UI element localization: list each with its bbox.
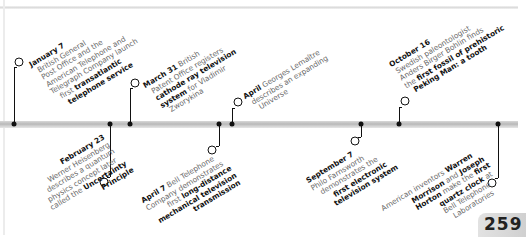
circle-marker-oct16 <box>401 97 410 106</box>
connector-april <box>232 108 233 124</box>
circle-marker-april <box>234 98 243 107</box>
connector-mar31 <box>130 88 131 124</box>
top-rule <box>0 6 518 9</box>
connector-sep7 <box>361 124 362 137</box>
left-margin-rule <box>3 0 5 235</box>
connector-oct16 <box>399 107 400 124</box>
circle-marker-sep7 <box>351 137 360 146</box>
connector-oct16-h <box>399 107 402 108</box>
circle-marker-mar31 <box>131 79 140 88</box>
connector-apr7-h <box>216 146 219 147</box>
page-number: 259 <box>484 214 523 234</box>
event-april: April Georges Lemaître describes an expa… <box>242 47 334 117</box>
timeline-axis <box>0 121 518 128</box>
connector-jan7 <box>14 67 15 124</box>
event-april-7: April 7 Bell Telephone Company demonstra… <box>140 149 243 234</box>
event-february-23: February 23 Werner Heisenberg describes … <box>28 129 136 222</box>
connector-jan7-h <box>14 67 17 68</box>
connector-april-h <box>232 108 235 109</box>
circle-marker-jan7 <box>15 58 24 67</box>
connector-quartz <box>498 124 499 178</box>
connector-mar31-h <box>130 88 133 89</box>
connector-apr7 <box>219 124 220 146</box>
event-october-16: October 16 Swedish paleontologist Anders… <box>388 2 510 99</box>
